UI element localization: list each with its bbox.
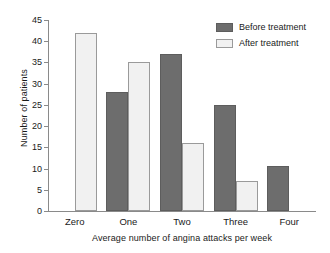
x-axis-title: Average number of angina attacks per wee… [48,233,316,243]
x-category-label-one: One [119,216,137,227]
chart-legend: Before treatmentAfter treatment [216,20,306,52]
y-tick-label: 45 [32,15,42,25]
bar-one-after [128,62,150,211]
y-tick-mark [44,211,48,212]
bar-zero-after [75,33,97,211]
y-tick-label: 0 [37,206,42,216]
x-category-label-four: Four [279,216,299,227]
bar-three-before [214,105,236,211]
y-tick-label: 30 [32,79,42,89]
bar-one-before [106,92,128,211]
y-tick-label: 15 [32,142,42,152]
y-tick-label: 40 [32,36,42,46]
x-category-label-zero: Zero [65,216,85,227]
legend-item-before: Before treatment [216,20,306,34]
y-axis-title: Number of patients [19,38,29,178]
y-tick-label: 10 [32,164,42,174]
y-tick-label: 35 [32,57,42,67]
legend-swatch-icon [216,23,233,32]
legend-swatch-icon [216,39,233,48]
x-category-label-two: Two [173,216,190,227]
bar-chart: Number of patients 051015202530354045 Ze… [0,0,330,253]
legend-item-after: After treatment [216,36,306,50]
x-category-label-three: Three [223,216,248,227]
y-tick-label: 25 [32,100,42,110]
bar-two-after [182,143,204,211]
x-axis-line [48,211,316,212]
bar-three-after [236,181,258,211]
bar-two-before [160,54,182,211]
legend-label: Before treatment [239,22,306,32]
bar-four-before [267,166,289,211]
legend-label: After treatment [239,38,299,48]
y-tick-label: 20 [32,121,42,131]
y-tick-label: 5 [37,185,42,195]
